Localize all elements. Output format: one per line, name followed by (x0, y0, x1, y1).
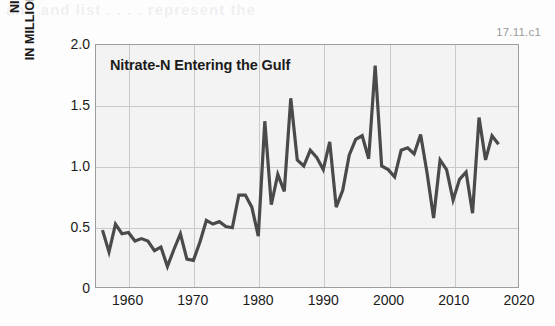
x-axis-tick-labels: 1960197019801990200020102020 (95, 292, 519, 314)
x-axis-tick-label: 1960 (98, 292, 158, 308)
chart-title: Nitrate-N Entering the Gulf (110, 57, 290, 73)
y-axis-tick-label: 1.0 (48, 159, 90, 173)
y-axis-tick-label: 0.5 (48, 220, 90, 234)
data-series-line (96, 45, 518, 287)
x-axis-tick-label: 2010 (424, 292, 484, 308)
x-axis-tick-label: 1990 (293, 292, 353, 308)
figure-id-label: 17.11.c1 (496, 26, 541, 38)
y-axis-tick-label: 0 (48, 281, 90, 295)
figure-page: and and list . . . . represent the e Che… (0, 0, 555, 326)
x-axis-tick-label: 1970 (163, 292, 223, 308)
x-axis-tick-label: 2000 (359, 292, 419, 308)
series-polyline (102, 66, 498, 267)
plot-inner: Nitrate-N Entering the Gulf (96, 45, 518, 287)
y-axis-tick-labels: 00.51.01.52.0 (44, 44, 90, 288)
scan-bleed-text-top: and and list . . . . represent the (6, 1, 426, 23)
x-axis-tick-label: 2020 (489, 292, 549, 308)
plot-area: Nitrate-N Entering the Gulf (95, 44, 519, 288)
y-axis-tick-label: 2.0 (48, 37, 90, 51)
y-axis-tick-label: 1.5 (48, 98, 90, 112)
x-axis-tick-label: 1980 (228, 292, 288, 308)
